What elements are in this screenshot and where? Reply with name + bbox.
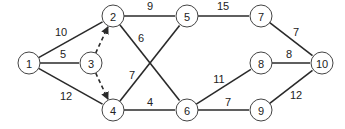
edge-3-4 [96, 73, 108, 99]
node-label: 8 [258, 58, 264, 70]
node-3: 3 [80, 52, 102, 74]
node-7: 7 [250, 5, 272, 27]
edge-weight-label: 4 [147, 96, 153, 108]
node-label: 3 [88, 58, 94, 70]
node-4: 4 [102, 99, 124, 121]
edge-3-2 [96, 27, 108, 53]
node-label: 7 [258, 11, 264, 23]
node-1: 1 [18, 52, 40, 74]
node-5: 5 [176, 5, 198, 27]
edge-weight-label: 12 [290, 89, 302, 101]
edge-weight-label: 10 [55, 26, 67, 38]
node-label: 10 [316, 58, 328, 70]
node-label: 6 [184, 105, 190, 117]
edge-weight-label: 7 [225, 96, 231, 108]
edge-weight-label: 6 [138, 32, 144, 44]
node-label: 5 [184, 11, 190, 23]
edge-weight-label: 7 [129, 69, 135, 81]
node-label: 2 [110, 11, 116, 23]
edge-weight-label: 12 [60, 90, 72, 102]
node-9: 9 [250, 99, 272, 121]
network-diagram: 105129674151177812 12345678910 [0, 0, 345, 129]
node-10: 10 [311, 52, 333, 74]
edge-weight-label: 9 [147, 0, 153, 12]
node-label: 9 [258, 105, 264, 117]
node-2: 2 [102, 5, 124, 27]
edge-weight-label: 5 [60, 48, 66, 60]
edge-weight-label: 11 [213, 73, 224, 85]
edge-weight-label: 15 [217, 0, 229, 12]
node-6: 6 [176, 99, 198, 121]
edge-weight-label: 7 [293, 26, 299, 38]
node-label: 4 [110, 105, 116, 117]
node-8: 8 [250, 52, 272, 74]
node-label: 1 [26, 58, 32, 70]
edge-weight-label: 8 [286, 48, 292, 60]
